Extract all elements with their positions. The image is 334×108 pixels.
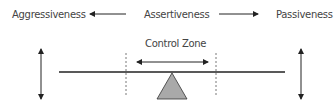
seesaw-diagram bbox=[0, 0, 334, 108]
fulcrum-triangle bbox=[157, 73, 187, 99]
